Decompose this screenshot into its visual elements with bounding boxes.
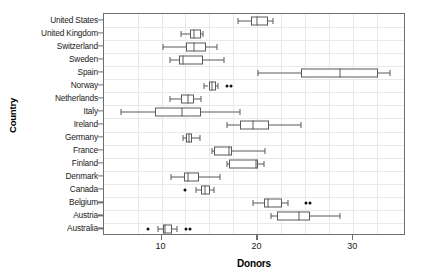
outlier-point — [185, 228, 188, 231]
y-axis-tick-label: Australia — [67, 223, 98, 233]
box-plot-group — [104, 14, 404, 234]
y-axis-tick-label: Switzerland — [57, 41, 98, 51]
y-axis-tick-label: Austria — [73, 210, 98, 220]
y-axis-tick — [98, 228, 103, 229]
y-axis-tick — [98, 58, 103, 59]
y-axis-tick-label: Ireland — [74, 119, 98, 129]
x-axis-tick-label: 20 — [251, 241, 261, 251]
boxplot-figure: Country United StatesUnited KingdomSwitz… — [0, 0, 424, 276]
plot-area — [103, 13, 405, 235]
y-axis-tick-label: United States — [50, 15, 98, 25]
y-axis-tick — [98, 110, 103, 111]
y-axis-tick-label: Sweden — [69, 54, 98, 64]
y-axis-tick-label: Finland — [72, 158, 98, 168]
y-axis-tick-label: United Kingdom — [41, 28, 98, 38]
x-axis-tick — [256, 235, 257, 240]
y-axis-tick-label: France — [73, 145, 98, 155]
median-line — [165, 225, 166, 234]
y-axis-tick — [98, 176, 103, 177]
y-axis-tick-label: Norway — [71, 80, 98, 90]
y-axis-tick — [98, 71, 103, 72]
y-axis-tick-label: Germany — [65, 132, 98, 142]
y-axis-tick-label: Spain — [78, 67, 98, 77]
outlier-point — [147, 228, 150, 231]
y-axis-tick-label: Belgium — [69, 197, 98, 207]
y-axis-tick — [98, 189, 103, 190]
y-axis-labels: United StatesUnited KingdomSwitzerlandSw… — [0, 0, 98, 276]
y-axis-tick — [98, 84, 103, 85]
y-axis-tick-label: Denmark — [65, 171, 98, 181]
x-axis-title: Donors — [103, 258, 405, 269]
y-axis-tick — [98, 45, 103, 46]
x-axis-tick-label: 10 — [156, 241, 166, 251]
y-axis-tick — [98, 19, 103, 20]
y-axis-tick — [98, 136, 103, 137]
y-axis-tick — [98, 123, 103, 124]
whisker-cap-high — [176, 226, 177, 232]
y-axis-tick — [98, 202, 103, 203]
x-axis-tick-label: 30 — [347, 241, 357, 251]
x-axis-tick — [161, 235, 162, 240]
whisker-cap-low — [157, 226, 158, 232]
y-axis-tick — [98, 150, 103, 151]
outlier-point — [189, 228, 192, 231]
y-axis-tick — [98, 97, 103, 98]
y-axis-tick — [98, 163, 103, 164]
y-axis-tick — [98, 215, 103, 216]
y-axis-tick-label: Canada — [70, 184, 98, 194]
y-axis-tick-label: Netherlands — [55, 93, 98, 103]
y-axis-tick-label: Italy — [84, 106, 98, 116]
y-axis-tick — [98, 32, 103, 33]
x-axis-tick — [352, 235, 353, 240]
